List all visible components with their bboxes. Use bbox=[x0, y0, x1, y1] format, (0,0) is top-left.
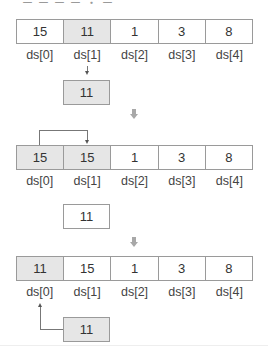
array-cell: 3 bbox=[159, 20, 206, 43]
shift-arrow-top bbox=[39, 130, 88, 131]
index-label: ds[4] bbox=[206, 48, 253, 62]
index-label: ds[4] bbox=[206, 285, 253, 299]
array-cell-highlighted: 11 bbox=[64, 20, 111, 43]
insert-arrow-vertical bbox=[40, 307, 41, 330]
shift-arrow-down-icon bbox=[85, 140, 89, 144]
index-labels-step2: ds[0] ds[1] ds[2] ds[3] ds[4] bbox=[16, 174, 253, 188]
array-cell: 8 bbox=[206, 20, 252, 43]
index-label: ds[0] bbox=[16, 174, 63, 188]
array-cell: 3 bbox=[159, 146, 206, 169]
index-label: ds[2] bbox=[111, 285, 158, 299]
array-cell-highlighted: 15 bbox=[64, 146, 111, 169]
array-step3: 11 15 1 3 8 bbox=[16, 256, 253, 281]
index-label: ds[3] bbox=[158, 48, 205, 62]
temp-box-step3: 11 bbox=[63, 317, 110, 342]
array-step1: 15 11 1 3 8 bbox=[16, 19, 253, 44]
index-label: ds[4] bbox=[206, 174, 253, 188]
index-label: ds[3] bbox=[158, 285, 205, 299]
index-label: ds[2] bbox=[111, 48, 158, 62]
index-labels-step3: ds[0] ds[1] ds[2] ds[3] ds[4] bbox=[16, 285, 253, 299]
index-label: ds[0] bbox=[16, 285, 63, 299]
bottom-divider bbox=[0, 345, 268, 346]
array-cell: 3 bbox=[159, 257, 206, 280]
array-cell: 15 bbox=[64, 257, 111, 280]
shift-arrow-right-leg bbox=[87, 130, 88, 140]
index-label: ds[1] bbox=[63, 48, 110, 62]
shift-arrow-left-leg bbox=[39, 130, 40, 145]
temp-box-step2: 11 bbox=[63, 204, 110, 229]
array-cell: 1 bbox=[111, 146, 158, 169]
insert-arrow-horizontal bbox=[40, 329, 63, 330]
index-label: ds[0] bbox=[16, 48, 63, 62]
step-down-arrow-icon bbox=[130, 109, 138, 119]
array-cell: 8 bbox=[206, 146, 252, 169]
array-cell-highlighted: 11 bbox=[17, 257, 64, 280]
index-label: ds[3] bbox=[158, 174, 205, 188]
cropped-heading: ー ー ー ー ・ ー bbox=[22, 0, 114, 10]
array-step2: 15 15 1 3 8 bbox=[16, 145, 253, 170]
array-cell-highlighted: 15 bbox=[17, 146, 64, 169]
temp-box-step1: 11 bbox=[63, 80, 110, 105]
array-cell: 1 bbox=[111, 257, 158, 280]
index-label: ds[1] bbox=[63, 285, 110, 299]
index-label: ds[2] bbox=[111, 174, 158, 188]
copy-arrow-down-icon bbox=[85, 71, 89, 75]
index-label: ds[1] bbox=[63, 174, 110, 188]
index-labels-step1: ds[0] ds[1] ds[2] ds[3] ds[4] bbox=[16, 48, 253, 62]
array-cell: 1 bbox=[111, 20, 158, 43]
array-cell: 15 bbox=[17, 20, 64, 43]
array-cell: 8 bbox=[206, 257, 252, 280]
step-down-arrow-icon bbox=[130, 237, 138, 247]
